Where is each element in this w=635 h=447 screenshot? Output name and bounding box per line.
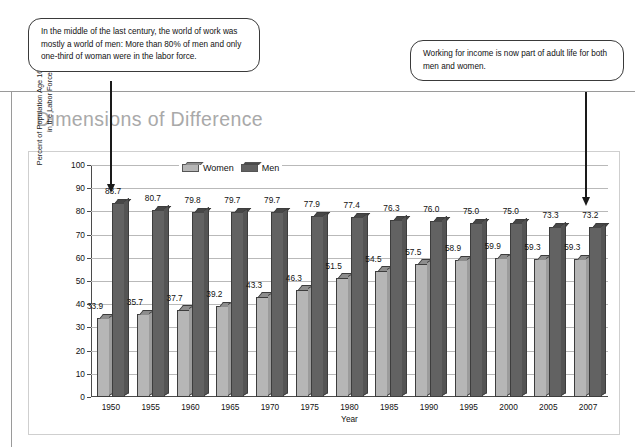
bar-group: 43.379.71970 [250,165,290,397]
bar-women[interactable] [177,310,190,397]
bar-group: 54.576.31985 [369,165,409,397]
callout-left: In the middle of the last century, the w… [28,18,260,72]
bar-group: 58.975.01995 [449,165,489,397]
legend-item-men: Men [241,163,280,173]
bar-women[interactable] [137,314,150,397]
bar-women[interactable] [534,259,547,397]
bar-value-label-women: 35.7 [127,297,143,307]
y-tick-label: 80 [76,206,85,216]
bar-value-label-men: 79.7 [224,195,240,205]
bar-men[interactable] [351,217,364,397]
bar-group: 57.576.01990 [409,165,449,397]
callout-left-arrow-icon [110,81,112,185]
bar-top-face [114,199,131,204]
bar-men[interactable] [470,223,483,397]
callout-right: Working for income is now part of adult … [410,40,624,81]
bar-men[interactable] [430,221,443,397]
bar-women[interactable] [97,318,110,397]
bar-value-label-women: 59.3 [564,242,580,252]
bar-value-label-women: 51.5 [326,261,342,271]
x-tick-label: 1995 [449,402,489,412]
bar-women[interactable] [415,264,428,397]
bar-side-face [363,213,368,396]
bar-value-label-men: 77.9 [304,199,320,209]
y-tick-label: 70 [76,230,85,240]
bar-women[interactable] [495,258,508,397]
x-tick-label: 2000 [489,402,529,412]
bar-men[interactable] [589,227,602,397]
bar-value-label-women: 58.9 [445,243,461,253]
bar-men[interactable] [231,212,244,397]
y-tick-label: 40 [76,299,85,309]
x-tick-label: 2007 [568,402,608,412]
bar-group: 59.373.32005 [528,165,568,397]
bar-women[interactable] [574,259,587,397]
x-tick-label: 1990 [409,402,449,412]
bar-women[interactable] [455,260,468,397]
chart-legend: Women Men [179,162,282,174]
bar-side-face [204,208,209,396]
bar-value-label-men: 73.3 [542,210,558,220]
plot-area: 0102030405060708090100 Women Men 33.983.… [91,165,608,397]
bar-men[interactable] [510,223,523,397]
legend-swatch-women-icon [182,164,199,172]
bar-value-label-women: 46.3 [286,273,302,283]
x-tick-label: 1950 [91,402,131,412]
bar-women[interactable] [336,278,349,397]
legend-label-women: Women [203,163,234,173]
bar-men[interactable] [152,210,165,397]
y-tick-label: 10 [76,369,85,379]
page-horizontal-rule [0,91,635,92]
y-tick-mark [87,397,91,398]
bar-side-face [323,212,328,396]
x-tick-label: 1980 [330,402,370,412]
bar-men[interactable] [390,220,403,397]
bar-group: 37.779.81960 [171,165,211,397]
bar-value-label-men: 79.7 [264,195,280,205]
bar-value-label-women: 39.2 [206,289,222,299]
bar-women[interactable] [375,271,388,397]
legend-item-women: Women [182,163,234,173]
bar-value-label-women: 33.9 [87,301,103,311]
x-tick-label: 1970 [250,402,290,412]
bar-men[interactable] [112,203,125,397]
callout-right-arrow-icon [585,92,587,198]
bar-group: 59.975.02000 [489,165,529,397]
bar-group: 46.377.91975 [290,165,330,397]
bar-top-face [273,208,290,213]
bar-group: 35.780.71955 [131,165,171,397]
y-tick-label: 20 [76,346,85,356]
bar-women[interactable] [216,306,229,397]
legend-label-men: Men [262,163,280,173]
bar-top-face [472,219,489,224]
x-tick-label: 1965 [210,402,250,412]
bar-value-label-men: 80.7 [145,193,161,203]
bar-value-label-women: 57.5 [405,247,421,257]
bar-women[interactable] [296,290,309,397]
bar-men[interactable] [271,212,284,397]
y-tick-label: 100 [71,160,85,170]
bar-top-face [154,206,171,211]
bar-value-label-women: 54.5 [365,254,381,264]
x-tick-label: 2005 [528,402,568,412]
bar-value-label-women: 43.3 [246,280,262,290]
bar-value-label-men: 77.4 [344,200,360,210]
x-tick-label: 1955 [131,402,171,412]
page-title: Dimensions of Difference [36,108,263,131]
bar-men[interactable] [192,212,205,397]
x-tick-label: 1985 [369,402,409,412]
bar-side-face [402,216,407,396]
bar-value-label-women: 37.7 [167,293,183,303]
bar-men[interactable] [549,227,562,397]
bar-value-label-men: 75.0 [463,206,479,216]
bar-men[interactable] [311,216,324,397]
bar-women[interactable] [256,297,269,397]
bar-value-label-women: 59.9 [485,241,501,251]
bar-side-face [601,223,606,396]
y-tick-label: 60 [76,253,85,263]
bar-value-label-men: 75.0 [503,206,519,216]
bar-group: 51.577.41980 [330,165,370,397]
bar-value-label-men: 76.0 [423,204,439,214]
x-tick-label: 1960 [171,402,211,412]
bar-group: 39.279.71965 [210,165,250,397]
